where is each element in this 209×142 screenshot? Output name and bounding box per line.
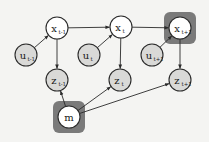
edge-x_curr-to-z_curr — [120, 38, 121, 69]
node-circle — [109, 69, 131, 91]
node-subscript: t-1 — [59, 29, 67, 35]
node-u_prev: ut-1 — [15, 44, 37, 66]
node-label: z — [114, 75, 119, 86]
node-label: m — [64, 112, 74, 123]
node-z_prev: zt-1 — [46, 69, 68, 91]
node-x_curr: xt — [110, 16, 132, 38]
node-subscript: t-1 — [28, 56, 36, 62]
node-x_next: xt+1 — [169, 17, 192, 39]
node-label: x — [115, 22, 121, 33]
edge-u_curr-to-x_curr — [97, 35, 112, 48]
node-subscript: t-1 — [59, 81, 67, 87]
node-label: u — [83, 50, 90, 61]
node-subscript: t+1 — [182, 29, 192, 35]
node-label: z — [51, 75, 56, 86]
edge-m-to-z_curr — [78, 87, 111, 111]
node-label: x — [174, 23, 180, 34]
node-m: m — [58, 106, 80, 128]
graphical-model-diagram: xt-1xtxt+1ut-1utut+1zt-1ztzt+1m — [0, 0, 209, 142]
node-label: u — [146, 50, 153, 61]
edge-x_prev-to-x_curr — [68, 27, 110, 28]
edge-u_prev-to-x_prev — [34, 36, 48, 48]
node-u_curr: ut — [78, 44, 100, 66]
node-z_curr: zt — [109, 69, 131, 91]
node-subscript: t+1 — [182, 81, 192, 87]
node-z_next: zt+1 — [169, 69, 192, 91]
node-circle — [110, 16, 132, 38]
node-u_next: ut+1 — [141, 44, 164, 66]
node-label: u — [20, 50, 27, 61]
node-subscript: t+1 — [154, 56, 164, 62]
node-x_prev: xt-1 — [46, 17, 68, 39]
edge-x_curr-to-x_next — [132, 27, 169, 28]
node-label: x — [51, 23, 57, 34]
node-label: z — [174, 75, 179, 86]
